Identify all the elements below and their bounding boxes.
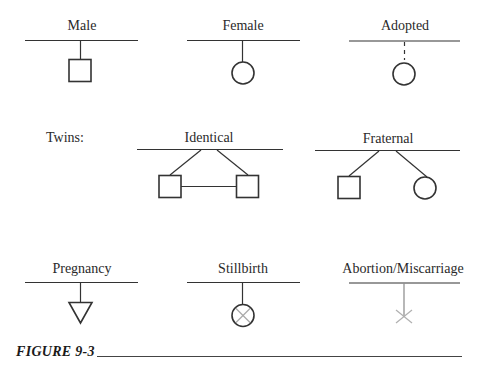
fraternal-square-icon: [338, 177, 360, 199]
identical-square-right-icon: [237, 176, 259, 198]
identical-twins-symbol: [137, 150, 283, 198]
female-circle-icon: [232, 62, 254, 84]
fraternal-circle-icon: [414, 177, 436, 199]
pregnancy-symbol: [25, 283, 138, 324]
fraternal-twins-symbol: [315, 151, 460, 200]
pedigree-diagram: [0, 0, 485, 371]
stillbirth-crossed-circle-icon: [232, 305, 254, 327]
adopted-circle-icon: [393, 63, 415, 85]
abortion-symbol: [349, 283, 460, 323]
female-symbol: [187, 41, 300, 85]
identical-square-left-icon: [159, 176, 181, 198]
stillbirth-symbol: [187, 283, 300, 327]
pregnancy-triangle-icon: [69, 303, 92, 324]
adopted-symbol: [349, 41, 460, 85]
male-square-icon: [69, 60, 91, 82]
male-symbol: [25, 41, 138, 82]
